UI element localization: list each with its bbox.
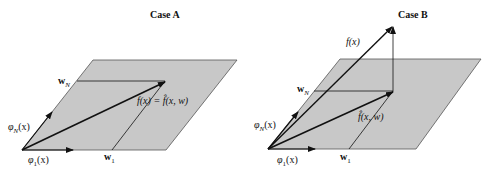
case-b-w1-label: w1 <box>340 152 351 165</box>
case-b-phi1-label: φ1(x) <box>277 155 298 168</box>
case-a-f-equals-fhat-label: f(x) = f̂(x, w) <box>137 96 188 106</box>
case-b-wN-label: wN <box>297 84 309 97</box>
case-a-phi1-label: φ1(x) <box>28 155 49 168</box>
case-b-phiN-label: φN(x) <box>254 120 276 133</box>
case-b-title: Case B <box>398 10 428 20</box>
plane-b <box>268 59 481 149</box>
case-a-diagram <box>22 60 237 150</box>
case-b-fx-label: f(x) <box>346 37 360 47</box>
case-a-w1-label: w1 <box>104 152 115 165</box>
diagram-canvas <box>0 0 489 173</box>
case-a-wN-label: wN <box>58 76 70 89</box>
case-b-fhat-label: f̂(x, w) <box>358 112 384 122</box>
case-a-title: Case A <box>150 10 180 20</box>
case-a-phiN-label: φN(x) <box>8 122 30 135</box>
plane-a <box>22 60 237 150</box>
